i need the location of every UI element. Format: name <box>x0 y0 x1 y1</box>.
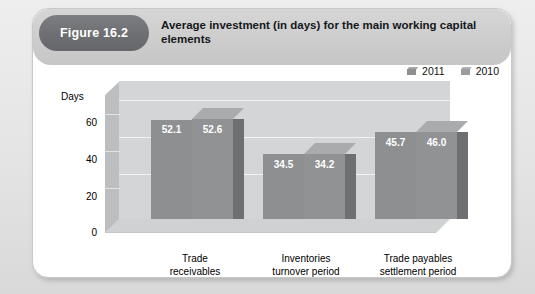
figure-number-badge: Figure 16.2 <box>39 15 149 51</box>
category-line: Trade payables <box>353 253 483 266</box>
legend-item-2011[interactable]: 2011 <box>407 65 445 77</box>
bar-top <box>192 108 244 119</box>
y-tick-40: 40 <box>71 154 97 165</box>
figure-header: Figure 16.2 Average investment (in days)… <box>33 9 511 65</box>
legend-item-2010[interactable]: 2010 <box>461 65 499 77</box>
category-line: receivables <box>131 266 259 279</box>
figure-card: Figure 16.2 Average investment (in days)… <box>32 8 512 278</box>
category-label-inventories: Inventories turnover period <box>241 253 371 278</box>
chart-legend: 2011 2010 <box>407 65 499 77</box>
bar-value-2010: 34.2 <box>304 159 345 170</box>
bar-value-2011: 52.1 <box>151 124 192 135</box>
figure-title: Average investment (in days) for the mai… <box>161 18 491 46</box>
bar-top <box>304 143 356 154</box>
chart-container: Days 2011 2010 60 <box>33 65 511 277</box>
bar-side <box>457 132 468 219</box>
bar-value-2011: 34.5 <box>263 159 304 170</box>
legend-label-2011: 2011 <box>422 65 445 77</box>
bar-group-trade-payables: 45.7 46.0 <box>375 79 461 219</box>
legend-swatch-2011 <box>407 67 418 75</box>
figure-number-label: Figure 16.2 <box>60 26 128 40</box>
legend-label-2010: 2010 <box>476 65 499 77</box>
gridline-edge-20 <box>105 188 120 189</box>
bar-value-2010: 52.6 <box>192 124 233 135</box>
gridline-edge-60 <box>105 114 120 115</box>
figure-page: Figure 16.2 Average investment (in days)… <box>0 0 535 294</box>
category-line: settlement period <box>353 266 483 279</box>
bar-side <box>233 119 244 219</box>
y-axis-title: Days <box>61 91 84 102</box>
category-line: Inventories <box>241 253 371 266</box>
category-label-trade-receivables: Trade receivables settlement period <box>131 253 259 278</box>
y-tick-20: 20 <box>71 191 97 202</box>
bar-value-2010: 46.0 <box>416 137 457 148</box>
bar-top <box>416 121 468 132</box>
y-tick-60: 60 <box>71 117 97 128</box>
category-line: turnover period <box>241 266 371 279</box>
legend-swatch-2010 <box>461 67 472 75</box>
plot-left-wall <box>105 81 120 233</box>
category-label-trade-payables: Trade payables settlement period <box>353 253 483 278</box>
plot-area: 52.1 52.6 34.5 34.2 <box>105 81 450 233</box>
bar-side <box>345 154 356 219</box>
y-tick-0: 0 <box>71 227 97 238</box>
gridline-edge-40 <box>105 151 120 152</box>
bar-group-inventories: 34.5 34.2 <box>263 79 349 219</box>
bar-group-trade-receivables: 52.1 52.6 <box>151 79 237 219</box>
bar-value-2011: 45.7 <box>375 137 416 148</box>
category-line: Trade <box>131 253 259 266</box>
plot-floor-front-edge <box>105 232 436 233</box>
